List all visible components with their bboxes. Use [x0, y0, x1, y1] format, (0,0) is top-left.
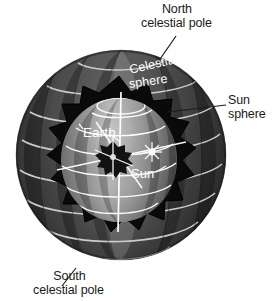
label-sun-sphere: Sun sphere [228, 94, 266, 121]
label-south-celestial-pole-line2: celestial pole [33, 284, 104, 298]
label-sun-sphere-line2: sphere [228, 108, 266, 122]
label-sun-sphere-line1: Sun [228, 93, 250, 107]
label-north-celestial-pole-line1: North [142, 3, 212, 17]
label-south-celestial-pole-line1: South [35, 270, 104, 284]
label-north-celestial-pole-line2: celestial pole [141, 17, 212, 31]
diagram-canvas: North celestial pole Sun sphere South ce… [0, 0, 275, 301]
label-north-celestial-pole: North celestial pole [141, 3, 212, 30]
label-south-celestial-pole: South celestial pole [33, 270, 104, 297]
celestial-sphere-illustration [0, 0, 275, 301]
sun-glyph [142, 142, 162, 162]
label-sun: Sun [131, 166, 154, 181]
label-earth: Earth [83, 125, 116, 140]
